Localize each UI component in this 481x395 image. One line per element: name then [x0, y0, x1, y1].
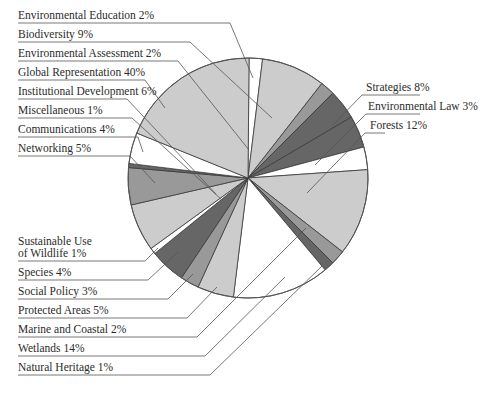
label-species: Species 4% — [18, 266, 72, 279]
label-communications: Communications 4% — [18, 123, 115, 135]
label-networking: Networking 5% — [18, 142, 92, 155]
label-marine-coastal: Marine and Coastal 2% — [18, 323, 127, 335]
label-social-policy: Social Policy 3% — [18, 285, 98, 298]
label-forests: Forests 12% — [370, 119, 428, 131]
label-natural-heritage: Natural Heritage 1% — [18, 361, 114, 374]
label-strategies: Strategies 8% — [366, 81, 430, 94]
label-protected-areas: Protected Areas 5% — [18, 304, 109, 316]
pie-slices — [128, 58, 368, 298]
label-biodiversity: Biodiversity 9% — [18, 28, 93, 41]
label-env-assessment: Environmental Assessment 2% — [18, 47, 162, 59]
label-environmental-law: Environmental Law 3% — [368, 100, 478, 112]
label-sustainable-use: Sustainable Useof Wildlife 1% — [18, 235, 92, 259]
label-env-education: Environmental Education 2% — [18, 9, 154, 21]
label-miscellaneous: Miscellaneous 1% — [18, 104, 103, 116]
label-wetlands: Wetlands 14% — [18, 342, 85, 354]
label-institutional-development: Institutional Development 6% — [18, 85, 157, 98]
pie-chart: Environmental Education 2%Biodiversity 9… — [0, 0, 481, 395]
label-global-representation: Global Representation 40% — [18, 66, 146, 79]
